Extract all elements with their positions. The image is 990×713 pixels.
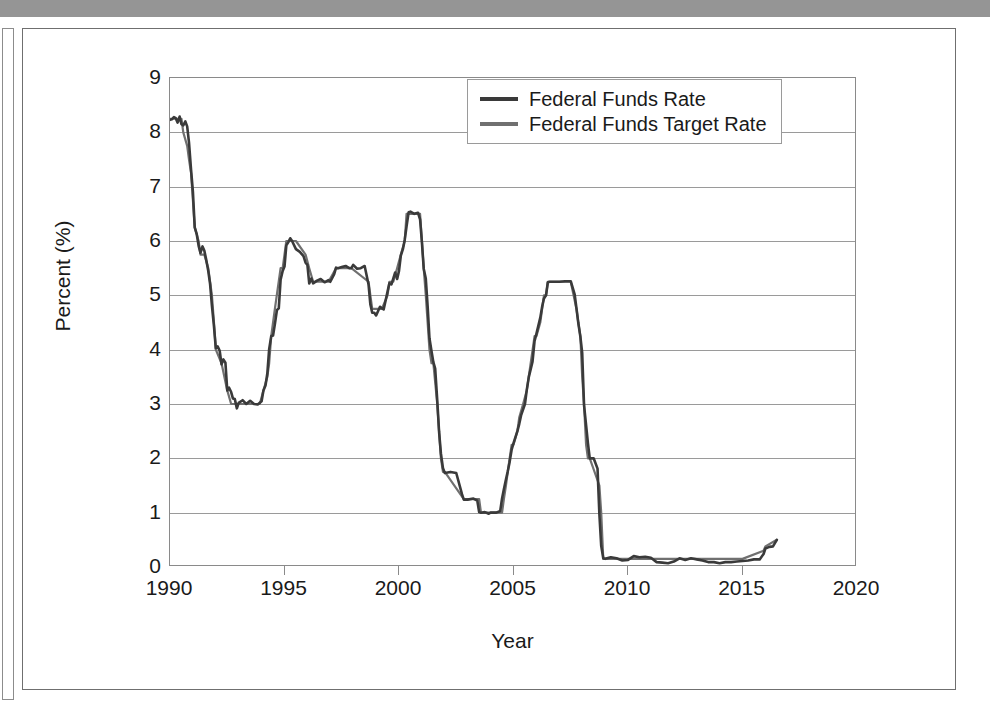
plot-area <box>169 77 856 566</box>
y-axis-tick-label: 5 <box>121 283 161 304</box>
x-axis-title: Year <box>169 629 856 653</box>
y-axis-tick-label: 7 <box>121 175 161 196</box>
legend-item-label: Federal Funds Target Rate <box>529 114 767 134</box>
y-axis-title: Percent (%) <box>51 176 75 376</box>
x-axis-tick-mark <box>742 566 743 575</box>
x-axis-tick-mark <box>398 566 399 575</box>
legend-item-label: Federal Funds Rate <box>529 89 706 109</box>
x-axis-tick-label: 2000 <box>353 577 443 598</box>
y-axis-tick-label: 4 <box>121 338 161 359</box>
y-axis-tick-label: 6 <box>121 229 161 250</box>
series-line <box>170 119 777 559</box>
chart: Percent (%) 0123456789 19901995200020052… <box>23 29 957 691</box>
page-edge-strip <box>2 28 14 700</box>
y-axis-tick-label: 2 <box>121 446 161 467</box>
x-axis-tick-label: 2015 <box>697 577 787 598</box>
x-axis-tick-marks <box>169 566 856 576</box>
x-axis-tick-label: 2010 <box>582 577 672 598</box>
series-lines <box>170 78 856 566</box>
y-axis-tick-label: 9 <box>121 66 161 87</box>
y-axis-tick-label: 3 <box>121 392 161 413</box>
series-line <box>170 117 777 564</box>
chart-legend: Federal Funds RateFederal Funds Target R… <box>467 79 782 144</box>
x-axis-tick-label: 2005 <box>468 577 558 598</box>
legend-item: Federal Funds Rate <box>480 86 767 111</box>
legend-item: Federal Funds Target Rate <box>480 111 767 136</box>
y-axis-tick-label: 1 <box>121 501 161 522</box>
x-axis-tick-mark <box>513 566 514 575</box>
x-axis-tick-label: 1990 <box>124 577 214 598</box>
x-axis-tick-mark <box>627 566 628 575</box>
x-axis-tick-labels: 1990199520002005201020152020 <box>169 577 856 605</box>
y-axis-tick-label: 8 <box>121 120 161 141</box>
legend-color-swatch <box>480 122 518 126</box>
x-axis-tick-label: 1995 <box>239 577 329 598</box>
figure-container: Percent (%) 0123456789 19901995200020052… <box>22 28 956 690</box>
x-axis-tick-label: 2020 <box>811 577 901 598</box>
page-header-bar <box>0 0 990 17</box>
y-axis-tick-label: 0 <box>121 555 161 576</box>
y-axis-tick-labels: 0123456789 <box>113 77 161 566</box>
x-axis-tick-mark <box>284 566 285 575</box>
legend-color-swatch <box>480 97 518 101</box>
